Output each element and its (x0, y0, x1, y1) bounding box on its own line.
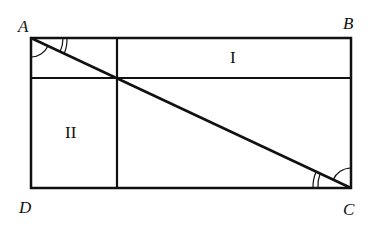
angle-mark-a-double-1 (60, 38, 63, 52)
diagonal-ac (31, 38, 351, 188)
region-label-ii: II (65, 123, 77, 142)
region-label-i: I (230, 48, 236, 67)
label-d: D (18, 198, 32, 217)
angle-mark-a-double-2 (64, 38, 67, 54)
label-a: A (17, 17, 29, 36)
angle-mark-c-single (333, 168, 351, 180)
label-c: C (343, 200, 355, 219)
angle-mark-a-single (31, 46, 48, 57)
rectangle-diagram: A B C D I II (0, 0, 378, 227)
label-b: B (343, 14, 354, 33)
angle-mark-c-double-1 (313, 172, 316, 188)
angle-mark-c-double-2 (318, 174, 320, 188)
